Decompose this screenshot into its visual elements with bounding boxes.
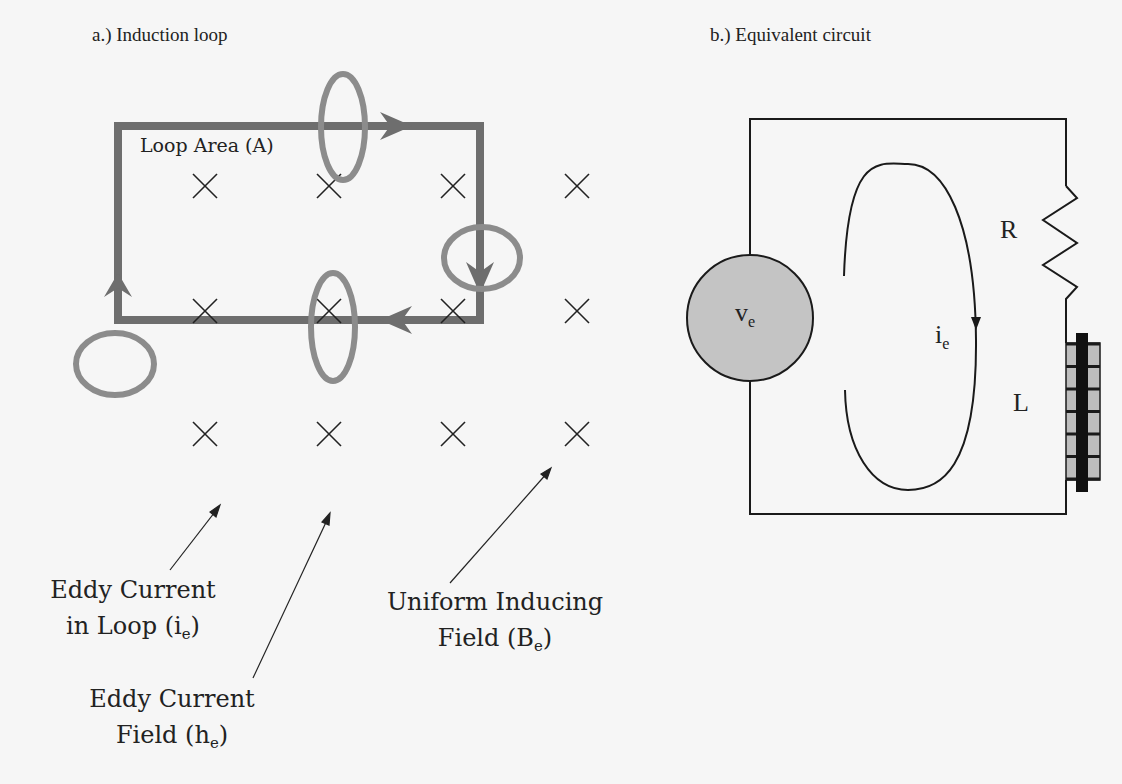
eddy-ring-bottom <box>311 273 355 381</box>
loop-area-label: Loop Area (A) <box>140 134 274 156</box>
source-label: ve <box>735 298 755 328</box>
eddy-ring-left <box>76 333 154 395</box>
annotation-uniform-field-line2: Field (Be) <box>355 620 635 656</box>
field-markers <box>193 174 589 446</box>
annotation-eddy-field-line1: Eddy Current <box>62 681 282 717</box>
annotation-uniform-field: Uniform Inducing Field (Be) <box>355 584 635 656</box>
annotation-eddy-loop: Eddy Current in Loop (ie) <box>28 572 238 644</box>
pointer-eddy-loop <box>170 508 218 570</box>
current-loop-arc <box>844 164 981 490</box>
panel-b-title: b.) Equivalent circuit <box>710 24 871 46</box>
pointer-eddy-field <box>253 518 328 678</box>
pointer-uniform-field <box>450 472 548 583</box>
annotation-uniform-field-line1: Uniform Inducing <box>355 584 635 620</box>
annotation-eddy-field-line2: Field (he) <box>62 717 282 753</box>
panel-a-title: a.) Induction loop <box>92 24 228 46</box>
annotation-eddy-loop-line2: in Loop (ie) <box>28 608 238 644</box>
inductor-label: L <box>1013 388 1029 418</box>
diagram-canvas <box>0 0 1122 784</box>
current-direction-icon <box>971 317 981 330</box>
current-label: ie <box>935 320 949 350</box>
resistor-zigzag <box>1043 186 1077 343</box>
annotation-eddy-field: Eddy Current Field (he) <box>62 681 282 753</box>
annotation-eddy-loop-line1: Eddy Current <box>28 572 238 608</box>
resistor-label: R <box>1000 215 1017 245</box>
inductor <box>1066 333 1100 492</box>
wire-top <box>750 119 1066 255</box>
